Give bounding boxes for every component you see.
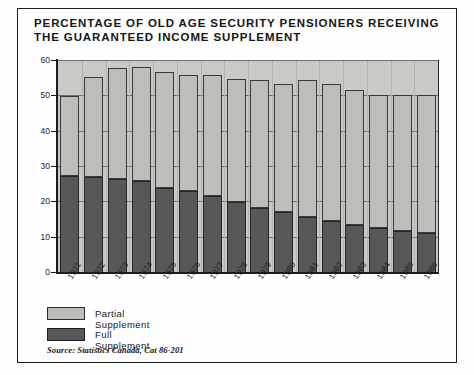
category-separator (343, 61, 344, 273)
chart-figure: PERCENTAGE OF OLD AGE SECURITY PENSIONER… (0, 0, 474, 375)
y-tick-label: 10 (30, 233, 50, 241)
bar-1971 (60, 96, 79, 273)
chart-title: PERCENTAGE OF OLD AGE SECURITY PENSIONER… (34, 16, 444, 44)
bar-1981 (298, 80, 317, 273)
y-tick-label: 20 (30, 197, 50, 205)
bar-segment-partial (369, 95, 388, 228)
y-tick-mark (51, 272, 56, 273)
plot-area (57, 60, 439, 274)
y-tick-label: 40 (30, 127, 50, 135)
category-separator (153, 61, 154, 273)
y-tick-label: 30 (30, 162, 50, 170)
category-separator (414, 61, 415, 273)
legend-label-partial: Partial Supplement (95, 308, 150, 330)
y-axis-line (56, 59, 58, 273)
bar-1976 (179, 75, 198, 273)
category-separator (248, 61, 249, 273)
bar-1983 (345, 90, 364, 273)
full-supplement-swatch (47, 328, 85, 341)
bar-1984 (369, 95, 388, 273)
bar-segment-partial (250, 80, 269, 207)
bar-1975 (155, 72, 174, 273)
y-tick-mark (51, 60, 56, 61)
source-note: Source: Statistics Canada, Cat 86-201 (47, 345, 184, 355)
bar-segment-partial (108, 68, 127, 179)
bar-1985 (393, 95, 412, 273)
bar-segment-partial (227, 79, 246, 202)
bar-segment-partial (84, 77, 103, 177)
category-separator (201, 61, 202, 273)
y-tick-mark (51, 131, 56, 132)
bar-segment-partial (417, 95, 436, 234)
y-tick-label: 0 (30, 268, 50, 276)
bar-1973 (108, 68, 127, 273)
category-separator (391, 61, 392, 273)
bar-segment-partial (345, 90, 364, 224)
bar-segment-partial (203, 75, 222, 196)
bar-segment-partial (60, 96, 79, 176)
bar-segment-partial (393, 95, 412, 231)
bar-segment-partial (322, 84, 341, 221)
bar-segment-partial (155, 72, 174, 188)
y-tick-label: 60 (30, 56, 50, 64)
y-tick-mark (51, 201, 56, 202)
bar-1980 (274, 84, 293, 273)
category-separator (367, 61, 368, 273)
bar-1979 (250, 80, 269, 273)
category-separator (319, 61, 320, 273)
bar-1982 (322, 84, 341, 273)
y-tick-mark (51, 166, 56, 167)
bar-segment-partial (274, 84, 293, 212)
category-separator (106, 61, 107, 273)
bar-segment-partial (298, 80, 317, 217)
category-separator (296, 61, 297, 273)
bar-1972 (84, 77, 103, 273)
category-separator (129, 61, 130, 273)
bar-1974 (132, 67, 151, 273)
category-separator (177, 61, 178, 273)
y-tick-mark (51, 95, 56, 96)
bar-1986 (417, 95, 436, 273)
bar-1978 (227, 79, 246, 273)
category-separator (82, 61, 83, 273)
partial-supplement-swatch (47, 307, 85, 320)
bar-1977 (203, 75, 222, 273)
y-tick-label: 50 (30, 91, 50, 99)
plot-inner (58, 61, 438, 273)
bar-segment-partial (132, 67, 151, 181)
bar-segment-partial (179, 75, 198, 191)
y-tick-mark (51, 237, 56, 238)
category-separator (224, 61, 225, 273)
category-separator (272, 61, 273, 273)
